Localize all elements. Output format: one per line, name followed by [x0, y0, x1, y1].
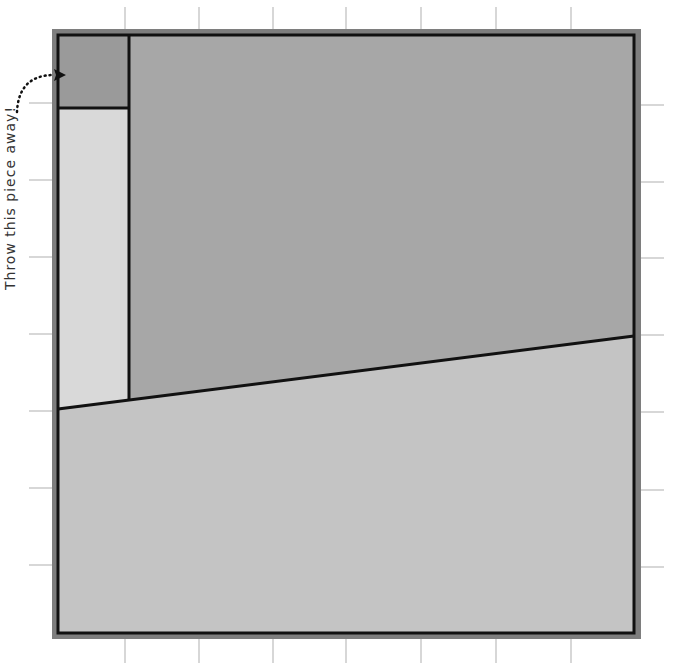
annotation-label: Throw this piece away!: [2, 106, 18, 290]
left-strip-piece: [58, 108, 129, 409]
upper-piece: [58, 35, 634, 400]
puzzle-diagram: [0, 0, 674, 670]
corner-piece: [58, 35, 129, 108]
dotted-arrow-icon: [17, 75, 54, 112]
